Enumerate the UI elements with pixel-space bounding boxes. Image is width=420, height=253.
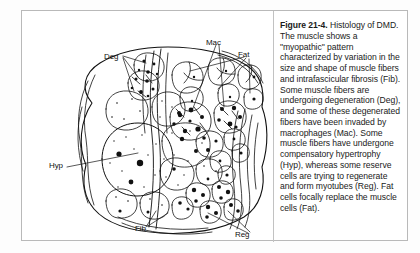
diagram-label-reg: Reg: [235, 230, 249, 239]
figure-caption-body: Histology of DMD. The muscle shows a "my…: [280, 20, 400, 213]
figure-number: Figure 21-4.: [280, 20, 328, 30]
diagram-label-hyp: Hyp: [49, 161, 63, 170]
figure-caption-pane: Figure 21-4. Histology of DMD. The muscl…: [275, 11, 409, 242]
diagram-label-fat: Fat: [238, 50, 249, 59]
figure-border-box: Deg Mac Fat Hyp Fib Reg Figure 21-4. His…: [21, 10, 408, 241]
histology-illustration: Deg Mac Fat Hyp Fib Reg: [22, 11, 273, 242]
diagram-label-fib: Fib: [135, 224, 146, 233]
diagram-label-deg: Deg: [104, 52, 118, 61]
figure-caption-text: Figure 21-4. Histology of DMD. The muscl…: [280, 20, 402, 214]
pane-divider: [273, 11, 274, 242]
figure-page: Deg Mac Fat Hyp Fib Reg Figure 21-4. His…: [0, 0, 420, 253]
diagram-label-mac: Mac: [206, 38, 221, 47]
muscle-cross-section-drawing: [22, 11, 273, 242]
